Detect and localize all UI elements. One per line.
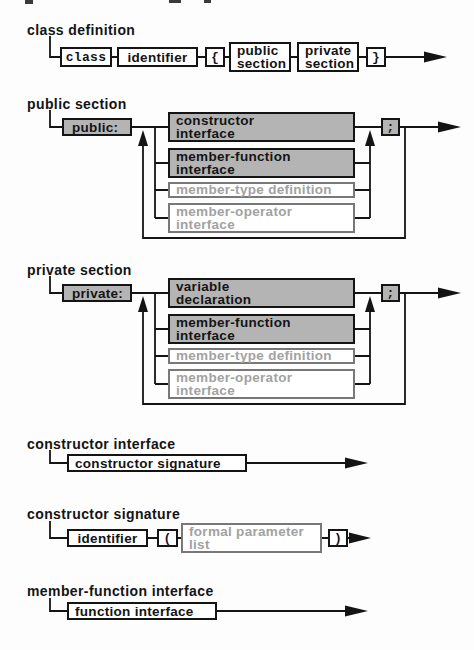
node-open-paren: ( [157,529,178,547]
arrowhead-icon [424,52,447,63]
node-public-section: public section [229,42,291,72]
node-private-keyword: private: [62,284,132,302]
node-private-section: private section [297,42,359,72]
node-class-keyword: class [60,47,112,67]
diagram-title: public section [27,96,127,112]
node-close-paren: ) [328,529,348,547]
node-member-function-interface: member-function interface [168,314,355,344]
syntax-diagram-page: class definition class identifier { publ… [0,0,474,650]
node-identifier: identifier [67,529,148,547]
entry-elbow-line [50,36,60,57]
arrowhead-icon [349,533,371,544]
loop-arrowhead-icon [138,130,148,146]
arrowhead-icon [438,288,461,299]
arrowhead-icon [345,606,368,617]
merge-arrowhead-icon [365,130,375,146]
node-close-brace: } [366,47,386,67]
entry-elbow-line [50,110,62,127]
entry-elbow-line [50,598,67,611]
node-identifier: identifier [117,47,198,67]
entry-elbow-line [50,276,62,293]
branch-connectors [155,329,168,384]
node-member-type-definition: member-type definition [168,348,355,364]
diagram-title: class definition [27,22,135,38]
node-member-type-definition: member-type definition [168,182,355,198]
scan-artifact [169,0,181,3]
node-semicolon: ; [381,118,400,136]
scan-artifact [25,0,33,4]
diagram-title: constructor interface [27,436,175,452]
node-variable-declaration: variable declaration [168,278,355,308]
node-member-operator-interface: member-operator interface [168,369,355,399]
merge-arrowhead-icon [365,296,375,312]
scan-artifact [204,0,211,3]
diagram-title: private section [27,262,132,278]
arrowhead-icon [345,458,368,469]
node-member-function-interface: member-function interface [168,148,355,178]
node-open-brace: { [205,47,225,67]
entry-elbow-line [50,521,67,538]
diagram-title: member-function interface [27,583,214,599]
branch-connectors [155,163,168,218]
node-member-operator-interface: member-operator interface [168,203,355,233]
node-function-interface: function interface [67,602,217,620]
loop-arrowhead-icon [138,296,148,312]
diagram-title: constructor signature [27,506,180,522]
arrowhead-icon [438,122,461,133]
node-constructor-interface: constructor interface [168,112,355,142]
node-public-keyword: public: [62,118,132,136]
node-formal-parameter-list: formal parameter list [181,523,322,553]
node-semicolon: ; [381,284,400,302]
node-constructor-signature: constructor signature [67,454,247,472]
